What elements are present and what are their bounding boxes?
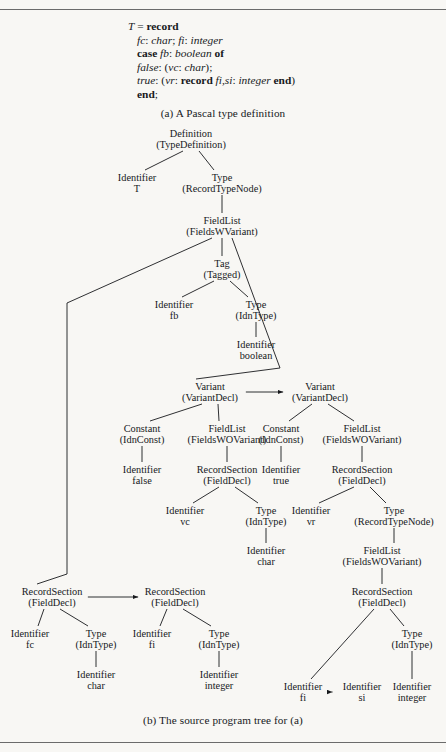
tree-node-kind: Constant (259, 423, 304, 434)
tree-edge (390, 609, 404, 626)
tree-node-detail: (IdnType) (198, 639, 239, 650)
tree-node-detail: vr (292, 516, 330, 527)
tree-node-detail: fb (155, 310, 193, 321)
tree-node-kind: Type (182, 172, 261, 183)
tree-node-detail: si (343, 692, 381, 703)
tree-edge (328, 404, 354, 421)
tree-node-fielddecl: RecordSection(FieldDecl) (332, 464, 393, 487)
tree-node-detail: integer (393, 692, 431, 703)
tree-node-integer: Identifierinteger (393, 681, 431, 704)
tree-node-detail: char (247, 556, 285, 567)
tree-node-kind: RecordSection (197, 464, 258, 475)
source-program-tree: Definition(TypeDefinition)IdentifierTTyp… (0, 0, 446, 752)
tree-edge (182, 281, 214, 297)
tree-node-kind: Identifier (262, 464, 300, 475)
tree-node-kind: RecordSection (22, 586, 83, 597)
tree-node-kind: Definition (156, 128, 226, 139)
tree-node-fieldswovariant: FieldList(FieldsWOVariant) (323, 423, 402, 446)
tree-node-detail: fi (133, 639, 171, 650)
tree-node-fb: Identifierfb (155, 299, 193, 322)
tree-edge (60, 609, 88, 626)
caption-b: (b) The source program tree for (a) (0, 714, 446, 726)
tree-node-detail: (FieldDecl) (22, 597, 83, 608)
tree-node-kind: Variant (182, 381, 238, 392)
tree-node-detail: (FieldsWOVariant) (343, 556, 422, 567)
tree-node-recordtypenode: Type(RecordTypeNode) (354, 505, 433, 528)
tree-node-detail: (IdnConst) (259, 434, 304, 445)
tree-node-detail: (FieldsWOVariant) (323, 434, 402, 445)
tree-node-fielddecl: RecordSection(FieldDecl) (22, 586, 83, 609)
tree-node-kind: Tag (203, 258, 240, 269)
tree-node-detail: (FieldsWOVariant) (188, 434, 267, 445)
tree-node-kind: Identifier (77, 669, 115, 680)
tree-node-detail: (IdnType) (391, 639, 432, 650)
tree-node-kind: Type (354, 505, 433, 516)
tree-node-fieldswovariant: FieldList(FieldsWOVariant) (188, 423, 267, 446)
tree-node-detail: (RecordTypeNode) (354, 516, 433, 527)
tree-node-fieldswovariant: FieldList(FieldsWOVariant) (343, 545, 422, 568)
tree-node-kind: Identifier (393, 681, 431, 692)
tree-node-idntype: Type(IdnType) (198, 628, 239, 651)
tree-node-idntype: Type(IdnType) (235, 299, 276, 322)
tree-node-kind: Identifier (343, 681, 381, 692)
tree-node-kind: Identifier (292, 505, 330, 516)
tree-edge (37, 238, 212, 584)
tree-node-kind: Type (391, 628, 432, 639)
tree-node-kind: RecordSection (352, 586, 413, 597)
tree-node-tagged: Tag(Tagged) (203, 258, 240, 281)
tree-node-detail: (IdnType) (235, 310, 276, 321)
tree-node-fielddecl: RecordSection(FieldDecl) (197, 464, 258, 487)
tree-node-detail: (IdnConst) (120, 434, 165, 445)
tree-node-kind: Identifier (200, 669, 238, 680)
tree-node-integer: Identifierinteger (200, 669, 238, 692)
tree-node-kind: Type (245, 505, 286, 516)
tree-edge (193, 487, 219, 503)
tree-node-fc: Identifierfc (11, 628, 49, 651)
tree-node-detail: (Tagged) (203, 269, 240, 280)
tree-node-idntype: Type(IdnType) (391, 628, 432, 651)
page-canvas: T = recordfc: char; fi: integercase fb: … (0, 0, 446, 752)
tree-node-idntype: Type(IdnType) (75, 628, 116, 651)
tree-node-kind: Identifier (166, 505, 204, 516)
tree-node-detail: boolean (237, 350, 275, 361)
tree-node-detail: (IdnType) (75, 639, 116, 650)
tree-node-detail: (FieldDecl) (332, 475, 393, 486)
tree-node-kind: Identifier (123, 464, 161, 475)
tree-node-detail: (FieldDecl) (352, 597, 413, 608)
tree-node-detail: vc (166, 516, 204, 527)
tree-node-variantdecl: Variant(VariantDecl) (292, 381, 348, 404)
tree-edge (370, 487, 386, 503)
tree-node-detail: (FieldsWVariant) (186, 226, 258, 237)
tree-node-kind: Identifier (284, 681, 322, 692)
tree-node-kind: Identifier (118, 172, 156, 183)
tree-node-detail: (RecordTypeNode) (182, 183, 261, 194)
tree-node-kind: Variant (292, 381, 348, 392)
tree-node-detail: T (118, 183, 156, 194)
tree-edge (145, 151, 183, 170)
tree-edge (199, 151, 214, 170)
tree-node-fi: Identifierfi (133, 628, 171, 651)
tree-node-char: Identifierchar (77, 669, 115, 692)
tree-node-kind: FieldList (188, 423, 267, 434)
tree-node-detail: (VariantDecl) (182, 392, 238, 403)
tree-node-detail: integer (200, 680, 238, 691)
tree-node-detail: char (77, 680, 115, 691)
tree-node-detail: (FieldDecl) (197, 475, 258, 486)
tree-node-kind: Identifier (11, 628, 49, 639)
tree-node-si: Identifiersi (343, 681, 381, 704)
tree-node-kind: Type (235, 299, 276, 310)
tree-node-true: Identifiertrue (262, 464, 300, 487)
tree-node-t: IdentifierT (118, 172, 156, 195)
tree-node-kind: RecordSection (332, 464, 393, 475)
tree-node-kind: RecordSection (145, 586, 206, 597)
tree-edge (218, 404, 219, 421)
tree-node-typedefinition: Definition(TypeDefinition) (156, 128, 226, 151)
tree-node-detail: true (262, 475, 300, 486)
tree-node-kind: Identifier (247, 545, 285, 556)
tree-edge (289, 404, 312, 421)
tree-edge (319, 487, 354, 503)
tree-node-kind: FieldList (343, 545, 422, 556)
tree-node-fi: Identifierfi (284, 681, 322, 704)
tree-node-kind: FieldList (323, 423, 402, 434)
tree-node-kind: FieldList (186, 215, 258, 226)
